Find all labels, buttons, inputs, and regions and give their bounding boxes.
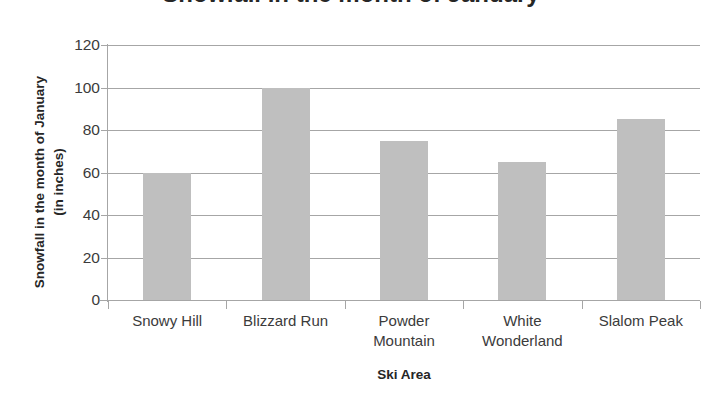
x-tick-label-line: Slalom Peak	[582, 311, 700, 331]
bar-powder-mountain	[380, 141, 428, 300]
x-tick-label: WhiteWonderland	[463, 311, 581, 351]
y-tick-label: 0	[4, 292, 100, 308]
x-tick-mark	[226, 301, 227, 309]
x-tick-label: Slalom Peak	[582, 311, 700, 331]
x-tick-label: Snowy Hill	[108, 311, 226, 331]
y-tick-label: 100	[4, 80, 100, 96]
chart-screenshot: Snowfall in the month of January Snowfal…	[0, 0, 702, 395]
bar-white-wonderland	[498, 162, 546, 300]
gridline	[108, 130, 700, 131]
bar-blizzard-run	[262, 88, 310, 301]
y-tick-label: 20	[4, 250, 100, 266]
y-tick-mark	[101, 258, 108, 259]
x-tick-mark	[700, 301, 701, 309]
bar-snowy-hill	[143, 173, 191, 301]
y-axis-tick-labels: 020406080100120	[0, 0, 100, 395]
y-tick-label: 60	[4, 165, 100, 181]
x-tick-mark	[582, 301, 583, 309]
x-tick-label-line: Wonderland	[463, 331, 581, 351]
x-tick-mark	[345, 301, 346, 309]
y-tick-mark	[101, 130, 108, 131]
gridline	[108, 45, 700, 46]
plot-area	[108, 45, 700, 300]
x-tick-label-line: Blizzard Run	[226, 311, 344, 331]
y-tick-mark	[101, 88, 108, 89]
y-tick-label: 80	[4, 122, 100, 138]
x-tick-label-line: Powder	[345, 311, 463, 331]
chart-title: Snowfall in the month of January	[0, 0, 702, 8]
y-tick-mark	[101, 215, 108, 216]
x-axis-title: Ski Area	[108, 367, 700, 382]
y-tick-label: 40	[4, 207, 100, 223]
gridline	[108, 88, 700, 89]
x-tick-label: Blizzard Run	[226, 311, 344, 331]
y-tick-mark	[101, 45, 108, 46]
y-tick-mark	[101, 300, 108, 301]
x-tick-label-line: Snowy Hill	[108, 311, 226, 331]
y-tick-mark	[101, 173, 108, 174]
x-tick-mark	[108, 301, 109, 309]
x-tick-mark	[463, 301, 464, 309]
gridline	[108, 300, 700, 301]
bar-slalom-peak	[617, 119, 665, 300]
x-axis-tick-labels: Snowy HillBlizzard RunPowderMountainWhit…	[108, 311, 700, 361]
x-tick-label-line: Mountain	[345, 331, 463, 351]
x-tick-label-line: White	[463, 311, 581, 331]
x-tick-label: PowderMountain	[345, 311, 463, 351]
y-tick-label: 120	[4, 37, 100, 53]
